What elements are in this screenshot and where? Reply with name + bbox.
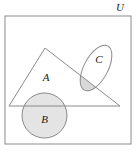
set-c-label: C bbox=[95, 53, 103, 65]
set-a-label: A bbox=[42, 71, 50, 83]
venn-diagram-canvas: U A B C bbox=[0, 0, 139, 154]
venn-diagram-figure: U A B C bbox=[0, 0, 139, 154]
set-b-label: B bbox=[41, 113, 48, 125]
universe-label: U bbox=[116, 1, 125, 13]
